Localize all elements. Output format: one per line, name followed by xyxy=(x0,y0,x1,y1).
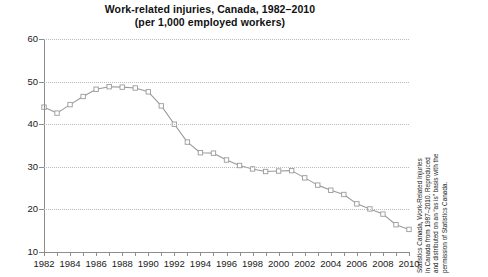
x-axis-tick xyxy=(396,252,397,256)
source-note-line: permission of Statistics Canada. xyxy=(441,141,449,273)
y-axis-tick xyxy=(39,209,44,210)
source-note: Statistics Canada, Work-Related Injuries… xyxy=(416,141,480,273)
x-axis-tick xyxy=(83,252,84,256)
x-axis-tick xyxy=(409,252,410,256)
y-axis-tick xyxy=(39,82,44,83)
x-axis-tick xyxy=(266,252,267,256)
data-point-marker xyxy=(407,227,411,231)
x-axis-tick xyxy=(344,252,345,256)
y-axis-tick-label: 50 xyxy=(2,76,38,87)
x-axis-tick xyxy=(174,252,175,256)
x-axis-tick xyxy=(279,252,280,256)
data-point-marker xyxy=(263,169,267,173)
gridline xyxy=(44,39,409,40)
x-axis-tick xyxy=(187,252,188,256)
data-point-marker xyxy=(68,102,72,106)
x-axis-tick xyxy=(305,252,306,256)
source-note-line: in Canada from 1987–2010. Reproduced xyxy=(424,141,432,273)
injury-rate-line-series xyxy=(44,39,409,252)
data-point-marker xyxy=(81,94,85,98)
gridline xyxy=(44,124,409,125)
data-point-marker xyxy=(198,151,202,155)
x-axis-tick xyxy=(240,252,241,256)
source-note-line: Statistics Canada, Work-Related Injuries xyxy=(416,141,424,273)
gridline xyxy=(44,82,409,83)
chart-title: Work-related injuries, Canada, 1982–2010 xyxy=(0,3,420,16)
x-axis-tick xyxy=(213,252,214,256)
y-axis-tick-label: 10 xyxy=(2,246,38,257)
data-point-marker xyxy=(146,90,150,94)
plot-area xyxy=(44,39,409,252)
y-axis-tick xyxy=(39,167,44,168)
source-note-line: and distributed on an “as is” basis with… xyxy=(432,141,440,273)
data-point-marker xyxy=(289,168,293,172)
data-point-marker xyxy=(120,85,124,89)
y-axis-tick xyxy=(39,124,44,125)
x-axis-tick xyxy=(161,252,162,256)
x-axis-tick xyxy=(200,252,201,256)
x-axis-tick xyxy=(383,252,384,256)
chart-title-block: Work-related injuries, Canada, 1982–2010… xyxy=(0,3,420,29)
gridline xyxy=(44,209,409,210)
data-point-marker xyxy=(316,183,320,187)
x-axis-tick xyxy=(318,252,319,256)
x-axis-tick xyxy=(57,252,58,256)
data-point-marker xyxy=(185,140,189,144)
data-point-marker xyxy=(55,111,59,115)
data-point-marker xyxy=(394,223,398,227)
x-axis-tick xyxy=(70,252,71,256)
x-axis-tick xyxy=(253,252,254,256)
x-axis-tick xyxy=(44,252,45,256)
x-axis-tick xyxy=(135,252,136,256)
x-axis-tick xyxy=(148,252,149,256)
y-axis-tick-label: 60 xyxy=(2,33,38,44)
data-point-marker xyxy=(329,188,333,192)
y-axis-tick-label: 20 xyxy=(2,203,38,214)
data-point-marker xyxy=(159,104,163,108)
data-point-marker xyxy=(107,85,111,89)
x-axis-tick xyxy=(331,252,332,256)
data-point-marker xyxy=(355,202,359,206)
y-axis-tick-label: 40 xyxy=(2,118,38,129)
x-axis-tick xyxy=(109,252,110,256)
data-point-marker xyxy=(342,192,346,196)
y-axis-tick xyxy=(39,39,44,40)
x-axis-tick xyxy=(227,252,228,256)
x-axis-tick xyxy=(96,252,97,256)
data-point-marker xyxy=(133,86,137,90)
y-axis-tick-label: 30 xyxy=(2,161,38,172)
data-point-marker xyxy=(224,158,228,162)
x-axis-tick xyxy=(357,252,358,256)
x-axis-tick xyxy=(370,252,371,256)
x-axis-tick xyxy=(122,252,123,256)
gridline xyxy=(44,167,409,168)
y-axis-line xyxy=(44,39,45,252)
y-axis-labels: 102030405060 xyxy=(0,0,38,277)
chart-subtitle: (per 1,000 employed workers) xyxy=(0,16,420,29)
chart-container: Work-related injuries, Canada, 1982–2010… xyxy=(0,0,488,277)
data-point-marker xyxy=(381,212,385,216)
data-point-marker xyxy=(211,151,215,155)
data-point-marker xyxy=(94,87,98,91)
x-axis-tick xyxy=(292,252,293,256)
data-point-marker xyxy=(303,176,307,180)
data-point-marker xyxy=(276,169,280,173)
